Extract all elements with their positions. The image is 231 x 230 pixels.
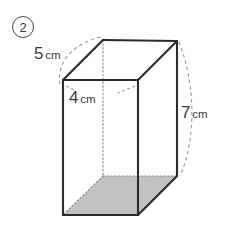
dimension-depth-value: 5 <box>34 44 44 63</box>
dimension-label-width: 4cm <box>69 89 96 106</box>
dimension-depth-unit: cm <box>45 49 61 61</box>
edge-top-right-depth <box>138 41 177 80</box>
geometry-figure: 2 5cm 4cm 7cm <box>0 0 231 230</box>
measure-tick-width-right <box>118 86 135 93</box>
dimension-width-unit: cm <box>80 93 96 105</box>
base-face-shaded <box>63 176 177 215</box>
edge-top-left-depth <box>63 40 103 80</box>
dimension-label-height: 7cm <box>181 104 208 121</box>
dimension-height-value: 7 <box>181 103 191 122</box>
dimension-width-value: 4 <box>69 88 79 107</box>
problem-item-number: 2 <box>12 16 34 38</box>
dimension-height-unit: cm <box>192 108 208 120</box>
dimension-label-depth: 5cm <box>34 45 61 62</box>
edge-top-back <box>103 40 177 41</box>
